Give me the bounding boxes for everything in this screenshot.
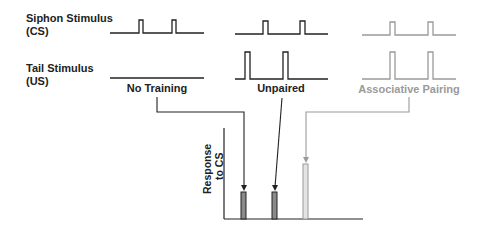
condition-label-unpaired: Unpaired xyxy=(257,82,305,94)
us-row-label-line1: Tail Stimulus xyxy=(26,62,94,74)
response-chart: Response to CS xyxy=(201,128,363,219)
cs-trace-no-training xyxy=(110,20,204,33)
panel-associative-pairing xyxy=(362,22,456,79)
bar-associative-pairing xyxy=(303,164,308,219)
us-row-label-line2: (US) xyxy=(26,75,49,87)
bar-unpaired xyxy=(272,192,277,219)
y-label-line2: to CS xyxy=(213,153,225,180)
leader-line-associative-pairing xyxy=(306,97,409,159)
condition-label-associative-pairing: Associative Pairing xyxy=(358,83,460,95)
bar-no-training xyxy=(241,192,246,219)
leader-line-unpaired xyxy=(275,98,282,187)
arrowhead-associative-pairing-icon xyxy=(303,157,309,163)
arrowhead-unpaired-icon xyxy=(272,185,278,191)
cs-trace-associative xyxy=(362,22,456,35)
us-trace-unpaired xyxy=(235,52,328,79)
panel-unpaired xyxy=(235,21,328,79)
arrowhead-no-training-icon xyxy=(241,185,247,191)
classical-conditioning-diagram: Siphon Stimulus (CS) Tail Stimulus (US) … xyxy=(0,0,478,234)
cs-trace-unpaired xyxy=(235,21,328,34)
panel-no-training xyxy=(110,20,204,78)
us-row-label: Tail Stimulus (US) xyxy=(26,62,94,87)
condition-label-no-training: No Training xyxy=(127,82,188,94)
cs-row-label-line1: Siphon Stimulus xyxy=(26,12,113,24)
cs-row-label: Siphon Stimulus (CS) xyxy=(26,12,113,37)
us-trace-associative xyxy=(362,52,456,79)
cs-row-label-line2: (CS) xyxy=(26,25,49,37)
chart-y-label: Response to CS xyxy=(201,144,225,194)
y-label-line1: Response xyxy=(201,144,213,194)
